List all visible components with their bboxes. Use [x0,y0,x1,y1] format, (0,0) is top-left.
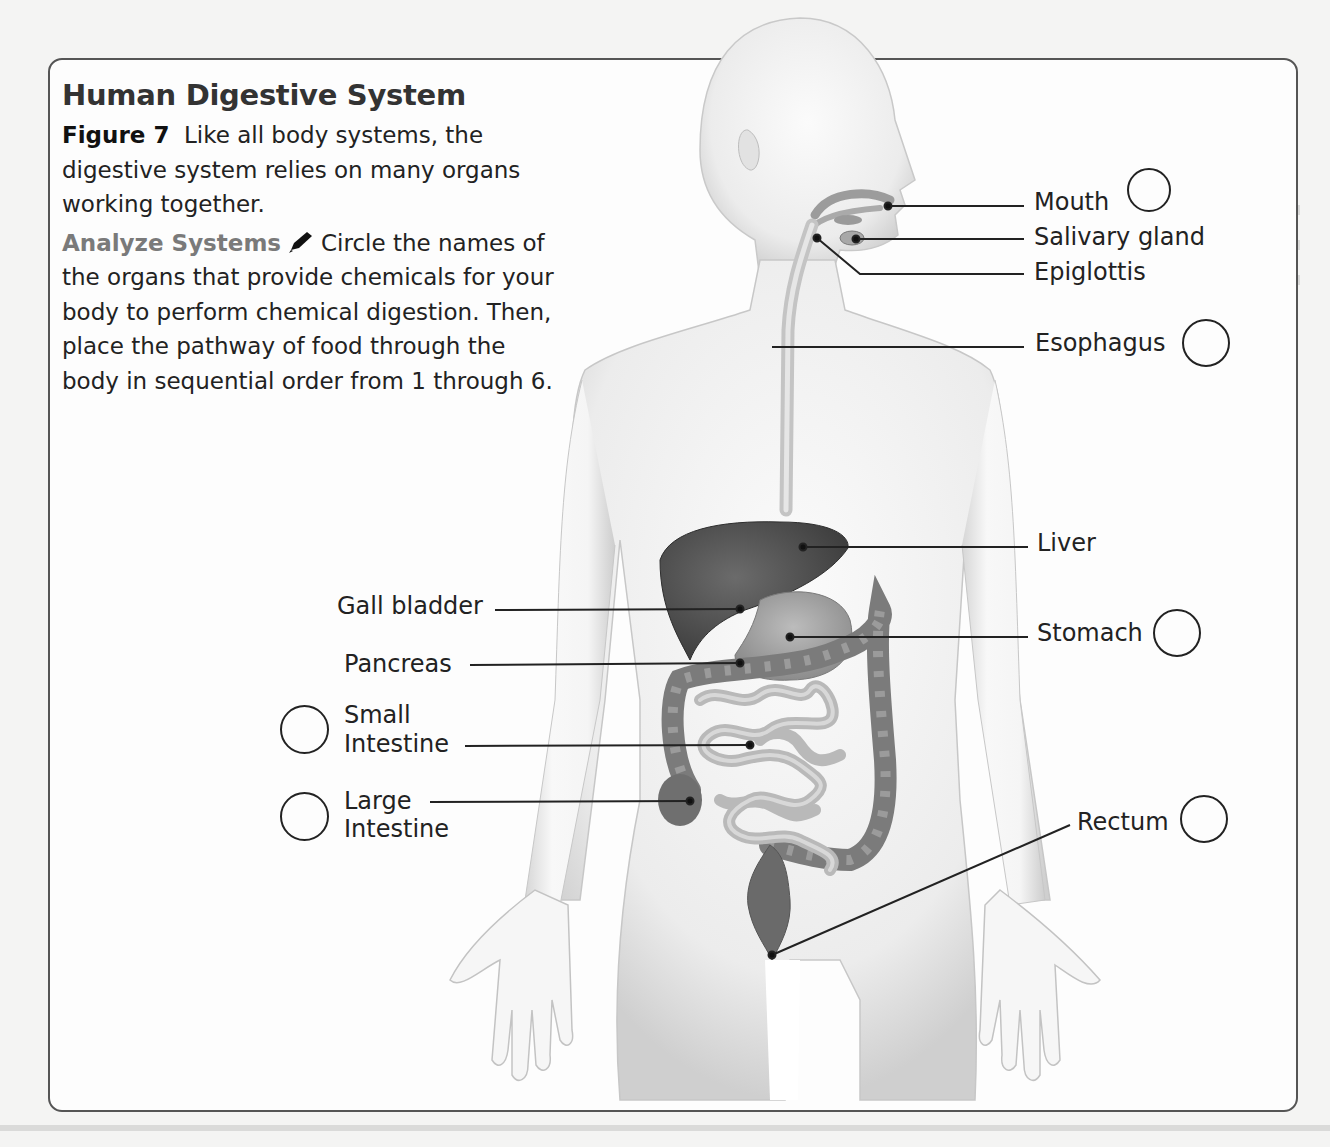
label-gall-bladder: Gall bladder [337,592,483,621]
label-large-intestine-line1: Large [344,787,412,816]
cecum [658,774,702,826]
pencil-icon [287,230,315,254]
label-large-intestine-line2: Intestine [344,815,449,844]
answer-circle-esophagus[interactable] [1182,319,1230,367]
analyze-label: Analyze Systems [62,230,281,256]
answer-circle-rectum[interactable] [1180,795,1228,843]
page-title: Human Digestive System [62,78,562,112]
label-salivary-gland: Salivary gland [1034,223,1205,252]
label-esophagus: Esophagus [1035,329,1165,358]
answer-circle-small-intestine[interactable] [280,705,329,754]
label-rectum: Rectum [1077,808,1169,837]
label-small-intestine-line2: Intestine [344,730,449,759]
figure-caption: Human Digestive System Figure 7 Like all… [62,78,562,398]
figure-number: Figure 7 [62,122,169,148]
answer-circle-stomach[interactable] [1153,609,1201,657]
label-small-intestine-line1: Small [344,701,411,730]
analyze-instructions: Analyze SystemsCircle the names of the o… [62,226,562,399]
label-epiglottis: Epiglottis [1034,258,1146,287]
label-stomach: Stomach [1037,619,1143,648]
figure-description: Figure 7 Like all body systems, the dige… [62,118,562,222]
label-mouth: Mouth [1034,188,1109,217]
answer-circle-large-intestine[interactable] [280,792,329,841]
answer-circle-mouth[interactable] [1127,168,1171,212]
label-liver: Liver [1037,529,1096,558]
label-pancreas: Pancreas [344,650,452,679]
